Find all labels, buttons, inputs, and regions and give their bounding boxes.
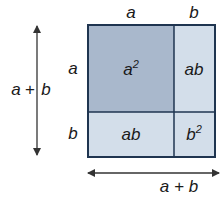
binomial-square-diagram: a b a b a + b a + b a2 ab ab b2 <box>0 0 220 198</box>
horizontal-dimension-label: a + b <box>160 177 198 196</box>
side-label-b: b <box>68 124 77 143</box>
label-ab-bottom-left: ab <box>122 125 141 144</box>
vertical-dimension-plus: + <box>25 80 35 99</box>
top-label-a: a <box>126 3 135 22</box>
vertical-dimension-b: b <box>41 80 50 99</box>
vertical-dimension-a: a <box>11 80 20 99</box>
side-label-a: a <box>68 59 77 78</box>
label-ab-top-right: ab <box>185 60 204 79</box>
top-label-b: b <box>189 3 198 22</box>
